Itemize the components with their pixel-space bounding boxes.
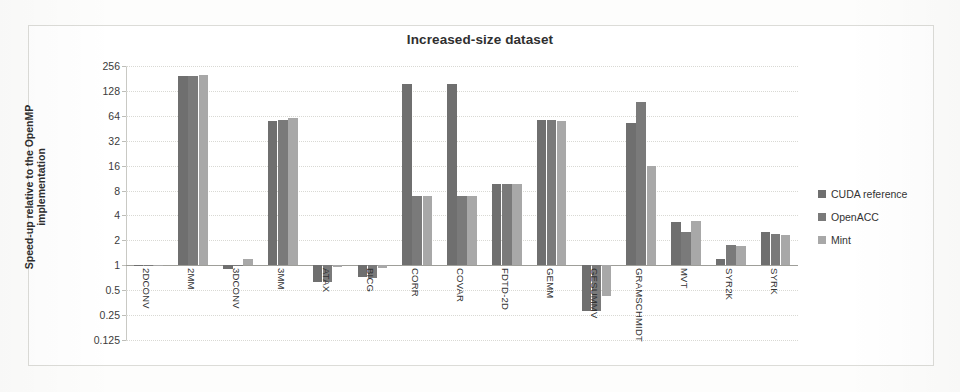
chart-title: Increased-size dataset (0, 32, 960, 47)
bar (636, 102, 646, 266)
chart-screenshot: Increased-size dataset Speed-up relative… (0, 0, 960, 392)
bar (537, 120, 547, 265)
x-axis-label: FDTD-2D (500, 268, 511, 310)
legend-label: Mint (831, 234, 851, 246)
x-axis-label: GRAMSCHMIDT (634, 268, 645, 342)
chart-legend: CUDA referenceOpenACCMint (818, 188, 907, 257)
bar (134, 265, 144, 266)
y-tick-label: 16 (58, 160, 120, 172)
y-axis-title-line2: implementation (35, 105, 47, 270)
x-axis-label: 2MM (186, 268, 197, 290)
bar (502, 184, 512, 266)
bar-group: FDTD-2D (484, 66, 529, 340)
plot-area: 2DCONV2MM3DCONV3MMATAXBICGCORRCOVARFDTD-… (126, 66, 798, 340)
bar (512, 184, 522, 266)
bar (726, 245, 736, 265)
bar (626, 123, 636, 265)
bar-group: BICG (350, 66, 395, 340)
x-axis-label: CORR (410, 268, 421, 297)
bar (771, 234, 781, 265)
bar (781, 235, 791, 265)
bar (716, 259, 726, 266)
y-axis-title: Speed-up relative to the OpenMP implemen… (25, 62, 45, 312)
bar-group: COVAR (440, 66, 485, 340)
x-axis-label: ATAX (321, 268, 332, 292)
y-tick-mark (122, 66, 126, 67)
bar (268, 121, 278, 265)
x-axis-label: SYR2K (724, 268, 735, 300)
y-tick-mark (122, 141, 126, 142)
y-tick-mark (122, 265, 126, 266)
y-tick-label: 64 (58, 110, 120, 122)
bar (681, 232, 691, 265)
bar-group: CORR (395, 66, 440, 340)
bar (233, 265, 243, 266)
y-tick-mark (122, 315, 126, 316)
y-tick-mark (122, 116, 126, 117)
legend-swatch (818, 190, 826, 198)
gridline (126, 340, 798, 341)
legend-label: CUDA reference (831, 188, 907, 200)
bar (691, 221, 701, 265)
bar (492, 184, 502, 265)
y-tick-mark (122, 240, 126, 241)
bar-group: ATAX (305, 66, 350, 340)
bar (278, 120, 288, 265)
bar (144, 265, 154, 266)
bar-group: SYR2K (708, 66, 753, 340)
bar-group: GRAMSCHMIDT (619, 66, 664, 340)
bar (378, 265, 388, 268)
bar (412, 196, 422, 265)
x-axis-label: SYRK (769, 268, 780, 295)
bar (736, 246, 746, 265)
bar (243, 259, 253, 266)
bar (199, 75, 209, 265)
y-tick-label: 8 (58, 185, 120, 197)
y-tick-mark (122, 166, 126, 167)
bar (423, 196, 433, 265)
x-axis-label: 2DCONV (141, 268, 152, 309)
bar (602, 265, 612, 296)
y-tick-mark (122, 340, 126, 341)
y-tick-label: 32 (58, 135, 120, 147)
bar-group: 3MM (260, 66, 305, 340)
legend-swatch (818, 213, 826, 221)
bar (188, 76, 198, 266)
y-tick-label: 2 (58, 234, 120, 246)
bar-group: GESUMMV (574, 66, 619, 340)
bar (647, 166, 657, 266)
bar-group: 2DCONV (126, 66, 171, 340)
y-tick-mark (122, 215, 126, 216)
bar (671, 222, 681, 265)
bar-group: MVT (664, 66, 709, 340)
x-axis-label: 3MM (276, 268, 287, 290)
legend-item: Mint (818, 234, 907, 246)
bar (457, 196, 467, 265)
y-tick-mark (122, 290, 126, 291)
y-tick-label: 0.125 (58, 334, 120, 346)
y-tick-label: 0.5 (58, 284, 120, 296)
bar (761, 232, 771, 265)
legend-swatch (818, 236, 826, 244)
bar (333, 265, 343, 267)
bar (154, 265, 164, 266)
legend-item: CUDA reference (818, 188, 907, 200)
bar (402, 84, 412, 265)
y-axis-title-line1: Speed-up relative to the OpenMP (23, 105, 35, 270)
x-axis-label: 3DCONV (231, 268, 242, 309)
x-axis-label: MVT (679, 268, 690, 289)
x-axis-label: COVAR (455, 268, 466, 302)
bar (447, 84, 457, 265)
bar-group: GEMM (529, 66, 574, 340)
x-axis-label: GEMM (545, 268, 556, 298)
bar-group: 2MM (171, 66, 216, 340)
bar-group: 3DCONV (216, 66, 261, 340)
bar (557, 121, 567, 266)
legend-item: OpenACC (818, 211, 907, 223)
y-tick-label: 128 (58, 85, 120, 97)
legend-label: OpenACC (831, 211, 879, 223)
x-axis-label: BICG (365, 268, 376, 292)
y-tick-mark (122, 91, 126, 92)
x-axis-label: GESUMMV (589, 268, 600, 319)
bar (178, 76, 188, 266)
